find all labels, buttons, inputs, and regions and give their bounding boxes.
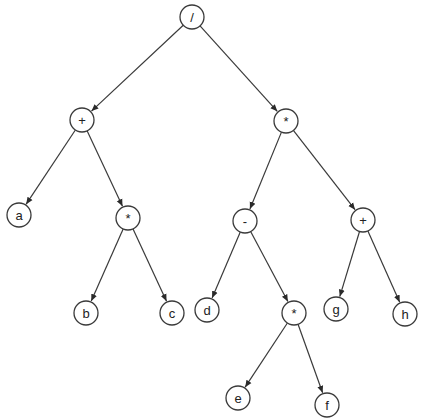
tree-node: - (233, 209, 257, 233)
node-label: g (332, 302, 339, 317)
node-label: e (234, 391, 241, 406)
tree-node: e (226, 386, 250, 410)
tree-node: / (180, 5, 204, 29)
tree-node: * (282, 301, 306, 325)
edge-n11-n15 (298, 324, 323, 392)
nodes-layer: /+*a*-+bcd*ghef (7, 5, 417, 417)
edge-n7-n13 (368, 231, 400, 302)
node-label: + (359, 213, 367, 228)
edge-n6-n10 (212, 232, 240, 298)
edge-n1-n2 (91, 25, 183, 111)
edge-n2-n5 (87, 131, 122, 206)
node-label: + (78, 113, 86, 128)
node-label: b (82, 306, 89, 321)
node-label: f (325, 398, 329, 413)
node-label: * (291, 306, 296, 321)
edge-n6-n11 (251, 232, 288, 302)
node-label: / (190, 10, 194, 25)
tree-node: a (7, 203, 31, 227)
edge-n5-n8 (91, 229, 123, 301)
tree-node: g (324, 297, 348, 321)
edge-n5-n9 (133, 229, 166, 301)
node-label: - (243, 214, 247, 229)
tree-node: c (160, 301, 184, 325)
edge-n7-n12 (340, 231, 360, 296)
node-label: a (15, 208, 23, 223)
node-label: d (203, 303, 210, 318)
node-label: c (169, 306, 176, 321)
tree-node: b (74, 301, 98, 325)
edge-n2-n4 (26, 130, 75, 204)
tree-node: d (195, 298, 219, 322)
edge-n1-n3 (200, 26, 277, 111)
node-label: * (125, 211, 130, 226)
expression-tree-diagram: /+*a*-+bcd*ghef (0, 0, 421, 420)
edge-n3-n6 (250, 132, 282, 209)
edge-n3-n7 (293, 130, 355, 209)
tree-node: + (70, 108, 94, 132)
tree-node: * (274, 109, 298, 133)
tree-node: + (351, 208, 375, 232)
node-label: h (401, 307, 408, 322)
edge-n11-n14 (245, 323, 287, 387)
edges-layer (26, 25, 400, 393)
tree-node: * (116, 206, 140, 230)
node-label: * (283, 114, 288, 129)
tree-node: h (393, 302, 417, 326)
tree-node: f (315, 393, 339, 417)
